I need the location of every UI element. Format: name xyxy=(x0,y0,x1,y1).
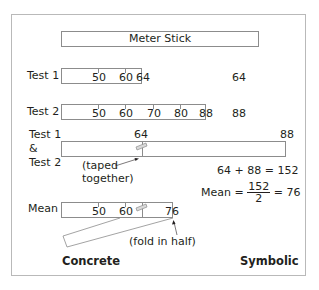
folded-strip xyxy=(63,218,173,247)
tape-icon-mean xyxy=(136,204,147,211)
arrow-icon-taped xyxy=(115,158,139,166)
tape-icon xyxy=(136,143,147,150)
arrow-icon-fold xyxy=(172,220,177,235)
diagram-graphics xyxy=(0,0,319,290)
